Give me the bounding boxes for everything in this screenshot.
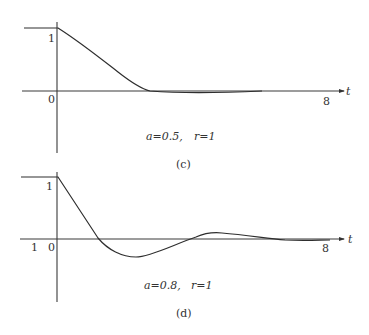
panel-c-annotation-r: r=1: [194, 130, 215, 143]
panel-d-x-tick-0: 0: [48, 241, 55, 254]
panel-d-annotation-r: r=1: [191, 279, 212, 292]
panel-d-chart: 1 1 0 8 t a=0.8, r=1 (d): [20, 172, 353, 320]
panel-d-curve: [21, 177, 330, 257]
panel-c-x-tick-0: 0: [48, 93, 55, 106]
panel-c-x-tick-8: 8: [323, 95, 330, 108]
figure: 1 0 8 t a=0.5, r=1 (c) 1 1 0 8 t a=0.8, …: [0, 0, 369, 335]
panel-c-chart: 1 0 8 t a=0.5, r=1 (c): [22, 22, 351, 171]
panel-d-x-tick-8: 8: [322, 242, 329, 255]
panel-d-x-axis-label: t: [348, 233, 353, 246]
panel-c-y-tick-1: 1: [48, 32, 55, 45]
panel-c-x-axis-label: t: [346, 85, 351, 98]
panel-d-y-tick-1: 1: [46, 180, 53, 193]
panel-c-annotation-a: a=0.5,: [146, 130, 183, 143]
panel-d-caption: (d): [176, 307, 192, 320]
panel-c-curve: [24, 28, 262, 93]
panel-c-caption: (c): [176, 158, 191, 171]
panel-d-x-tick-neg1: 1: [31, 241, 38, 254]
panel-d-annotation-a: a=0.8,: [144, 279, 181, 292]
